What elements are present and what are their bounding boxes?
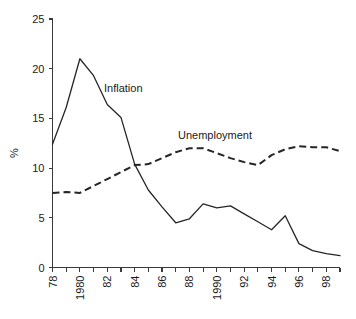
y-tick-label: 0 [38, 262, 44, 274]
chart-container: 0510152025 78198082848688199092949698 In… [0, 0, 356, 319]
x-tick-label: 1980 [74, 276, 86, 300]
x-tick-label: 82 [101, 276, 113, 288]
x-tick-label: 84 [129, 276, 141, 288]
line-chart: 0510152025 78198082848688199092949698 In… [0, 0, 356, 319]
x-tick-label: 88 [183, 276, 195, 288]
y-tick-label: 25 [32, 13, 44, 25]
unemployment-series-label: Unemployment [178, 129, 252, 141]
x-tick-label: 86 [156, 276, 168, 288]
x-tick-label: 98 [320, 276, 332, 288]
inflation-series-label: Inflation [104, 82, 143, 94]
plot-axes [53, 19, 341, 268]
x-tick-label: 78 [47, 276, 59, 288]
y-tick-label: 5 [38, 212, 44, 224]
x-tick-labels: 78198082848688199092949698 [47, 276, 333, 300]
y-tick-label: 15 [32, 112, 44, 124]
x-tick-label: 96 [293, 276, 305, 288]
series-line-unemployment [53, 146, 341, 193]
series-line-inflation [53, 59, 341, 256]
x-tick-label: 94 [266, 276, 278, 288]
annotations-group: Inflation Unemployment [104, 82, 252, 141]
y-tick-label: 20 [32, 63, 44, 75]
x-tick-label: 1990 [211, 276, 223, 300]
y-tick-labels: 0510152025 [32, 13, 44, 274]
y-tick-label: 10 [32, 162, 44, 174]
x-tick-label: 92 [238, 276, 250, 288]
series-group [53, 59, 341, 256]
y-axis-title: % [8, 148, 20, 158]
